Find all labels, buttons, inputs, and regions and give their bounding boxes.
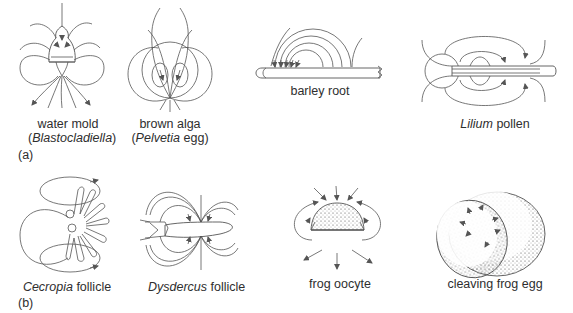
water-mold-scientific-name: (Blastocladiella) (28, 131, 108, 145)
panel-label-a: (a) (18, 148, 33, 162)
cleaving-frog-egg-drawing (428, 190, 545, 286)
cecropia-follicle-label: Cecropia follicle (22, 280, 112, 294)
panel-label-b: (b) (18, 296, 33, 310)
dysdercus-follicle-label: Dysdercus follicle (148, 280, 238, 294)
dysdercus-follicle-drawing (140, 192, 238, 270)
figure-drawings (0, 0, 573, 313)
brown-alga-scientific-name: (Pelvetia egg) (130, 131, 210, 145)
brown-alga-common-name: brown alga (130, 117, 210, 131)
frog-oocyte-drawing (294, 186, 380, 269)
water-mold-common-name: water mold (28, 117, 108, 131)
cecropia-follicle-drawing (20, 177, 109, 272)
cleaving-frog-egg-label: cleaving frog egg (445, 277, 545, 291)
barley-root-drawing (256, 28, 382, 78)
frog-oocyte-label: frog oocyte (300, 277, 380, 291)
water-mold-drawing (20, 3, 104, 108)
water-mold-label: water mold (Blastocladiella) (28, 117, 108, 145)
lilium-pollen-label: Lilium pollen (455, 117, 535, 131)
brown-alga-drawing (128, 8, 212, 112)
brown-alga-label: brown alga (Pelvetia egg) (130, 117, 210, 145)
barley-root-label: barley root (280, 84, 360, 98)
lilium-pollen-drawing (422, 36, 556, 105)
